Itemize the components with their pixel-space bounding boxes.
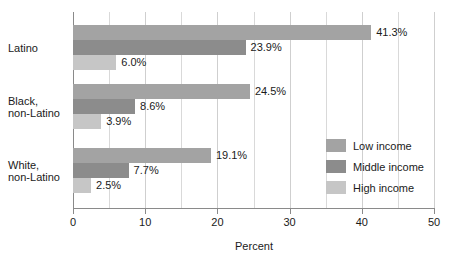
x-tick-mark — [290, 209, 291, 214]
legend: Low incomeMiddle incomeHigh income — [326, 136, 438, 199]
x-tick-label: 50 — [428, 216, 440, 229]
legend-swatch — [326, 160, 346, 173]
bar — [73, 40, 246, 55]
bar — [73, 99, 135, 114]
bar-value-label: 19.1% — [216, 148, 247, 163]
bar — [73, 55, 116, 70]
x-tick-label: 20 — [211, 216, 223, 229]
category-label: Latino — [8, 42, 70, 54]
bar — [73, 178, 91, 193]
x-tick-label: 10 — [139, 216, 151, 229]
bar-value-label: 6.0% — [121, 55, 146, 70]
legend-swatch — [326, 139, 346, 152]
bar — [73, 163, 129, 178]
x-tick-label: 30 — [283, 216, 295, 229]
legend-label: Low income — [353, 140, 412, 152]
x-tick-label: 0 — [70, 216, 76, 229]
x-tick-label: 40 — [356, 216, 368, 229]
gridline — [290, 12, 291, 208]
bar — [73, 114, 101, 129]
legend-item[interactable]: Middle income — [326, 157, 438, 176]
category-label: Black,non-Latino — [8, 95, 70, 119]
bar — [73, 25, 371, 40]
bar-chart: 01020304050 Percent LatinoBlack,non-Lati… — [0, 0, 449, 266]
category-label-line: non-Latino — [8, 107, 70, 119]
x-tick-mark — [217, 209, 218, 214]
legend-item[interactable]: Low income — [326, 136, 438, 155]
category-label: White,non-Latino — [8, 159, 70, 183]
category-label-line: White, — [8, 159, 70, 171]
x-tick-mark — [73, 209, 74, 214]
bar-value-label: 23.9% — [251, 40, 282, 55]
bar-value-label: 41.3% — [376, 25, 407, 40]
bar-value-label: 3.9% — [106, 114, 131, 129]
x-tick-mark — [145, 209, 146, 214]
bar-value-label: 24.5% — [255, 84, 286, 99]
x-axis-line — [73, 208, 435, 209]
bar-value-label: 7.7% — [134, 163, 159, 178]
category-label-line: Black, — [8, 95, 70, 107]
category-label-line: non-Latino — [8, 171, 70, 183]
bar — [73, 84, 250, 99]
legend-label: High income — [353, 182, 414, 194]
legend-item[interactable]: High income — [326, 178, 438, 197]
x-tick-mark — [362, 209, 363, 214]
category-label-line: Latino — [8, 42, 70, 54]
legend-swatch — [326, 181, 346, 194]
x-tick-mark — [434, 209, 435, 214]
bar-value-label: 2.5% — [96, 178, 121, 193]
x-axis-title: Percent — [73, 240, 435, 252]
bar-value-label: 8.6% — [140, 99, 165, 114]
legend-label: Middle income — [353, 161, 424, 173]
bar — [73, 148, 211, 163]
